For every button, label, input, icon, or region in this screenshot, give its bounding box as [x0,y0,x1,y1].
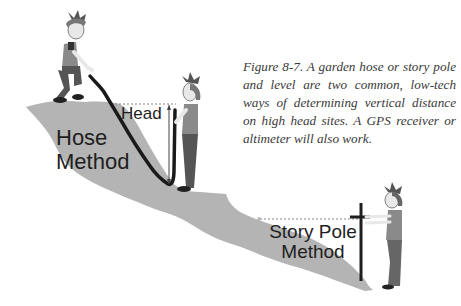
level-marker-x: × [257,215,261,222]
person-holding-hose-end [176,72,200,192]
person-holding-story-pole [366,182,402,290]
story-pole-line2: Method [258,242,368,262]
head-label: Head [121,105,162,123]
figure-caption: Figure 8-7. A garden hose or story pole … [243,58,456,148]
person-crouching-on-hilltop [53,10,92,103]
hose-method-line1: Hose [56,126,129,150]
hose-method-line2: Method [56,150,129,174]
figure-illustration: × [0,0,461,306]
head-arrow-top [167,104,171,110]
story-pole-method-label: Story Pole Method [258,222,368,262]
story-pole-line1: Story Pole [258,222,368,242]
hose-method-label: Hose Method [56,126,129,174]
